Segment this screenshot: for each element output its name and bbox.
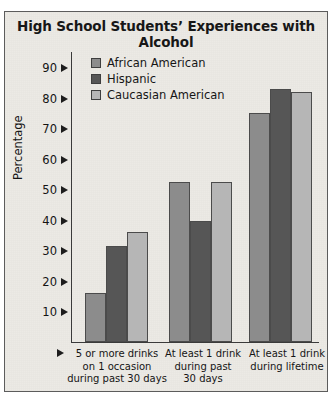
x-axis-captions: 5 or more drinkson 1 occasionduring past…	[71, 348, 321, 392]
y-tick-arrow-icon	[61, 95, 68, 103]
y-tick-arrow-icon	[61, 217, 68, 225]
cut-off-caption-strip: A VERTICAL GRAPH	[0, 0, 332, 11]
bar	[291, 92, 312, 342]
x-axis-arrow-icon	[57, 349, 64, 357]
y-axis-tick: 70	[38, 123, 71, 135]
bar	[169, 182, 190, 342]
y-axis-tick-label: 20	[38, 275, 57, 289]
x-axis-category-label: At least 1 drinkduring lifetime	[235, 348, 328, 373]
y-axis-tick: 20	[38, 276, 71, 288]
y-axis-tick-label: 70	[38, 122, 57, 136]
x-axis-category-line: during lifetime	[235, 361, 328, 374]
y-axis-tick: 90	[38, 62, 71, 74]
bar	[249, 113, 270, 342]
y-axis-label: Percentage	[11, 115, 25, 180]
bar	[127, 232, 148, 342]
bar	[211, 182, 232, 342]
bar-group	[169, 52, 241, 342]
y-axis-tick-label: 50	[38, 183, 57, 197]
y-axis-tick: 60	[38, 154, 71, 166]
y-tick-arrow-icon	[61, 64, 68, 72]
y-tick-arrow-icon	[61, 186, 68, 194]
bar	[190, 221, 211, 342]
y-axis-tick-label: 60	[38, 153, 57, 167]
bar	[85, 293, 106, 342]
y-axis-tick: 80	[38, 93, 71, 105]
y-axis-tick-label: 90	[38, 61, 57, 75]
x-axis-line	[71, 342, 319, 343]
chart-title: High School Students’ Experiences with A…	[5, 18, 327, 50]
y-axis-tick: 30	[38, 245, 71, 257]
y-axis-tick-label: 40	[38, 214, 57, 228]
y-tick-arrow-icon	[61, 278, 68, 286]
x-axis-category-line: 30 days	[151, 373, 255, 386]
bar	[106, 246, 127, 342]
plot-area: 102030405060708090	[71, 52, 319, 343]
y-axis-tick-label: 30	[38, 244, 57, 258]
y-axis-tick: 10	[38, 306, 71, 318]
y-axis-tick-label: 10	[38, 305, 57, 319]
y-axis-line	[71, 52, 72, 343]
bar-group	[249, 52, 321, 342]
y-axis-tick: 40	[38, 215, 71, 227]
bar	[270, 89, 291, 342]
y-tick-arrow-icon	[61, 247, 68, 255]
x-axis-category-line: At least 1 drink	[235, 348, 328, 361]
bar-group	[85, 52, 157, 342]
chart-figure: High School Students’ Experiences with A…	[4, 11, 328, 392]
y-tick-arrow-icon	[61, 125, 68, 133]
y-axis-tick-label: 80	[38, 92, 57, 106]
y-tick-arrow-icon	[61, 308, 68, 316]
cut-off-caption-text: A VERTICAL GRAPH	[4, 0, 112, 1]
y-tick-arrow-icon	[61, 156, 68, 164]
y-axis-tick: 50	[38, 184, 71, 196]
